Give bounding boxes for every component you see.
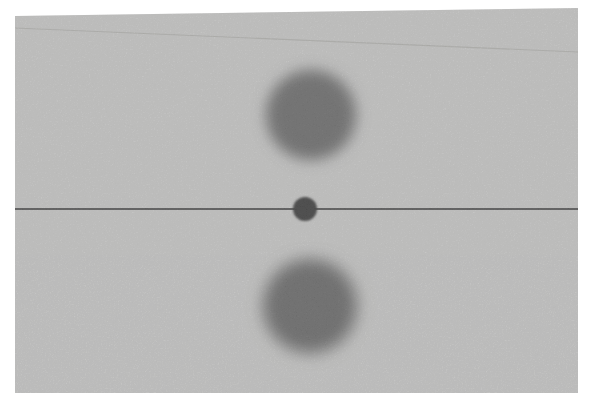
grain-texture-light bbox=[0, 0, 593, 415]
photo-content bbox=[0, 0, 593, 415]
figure-canvas bbox=[0, 0, 593, 415]
